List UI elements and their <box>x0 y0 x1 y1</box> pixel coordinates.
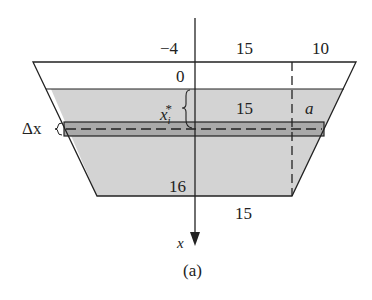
label-delta-x: Δx <box>22 120 41 137</box>
caption: (a) <box>183 262 202 279</box>
arrow-down-icon <box>190 232 200 246</box>
label-axis-x: x <box>177 236 184 251</box>
label-zero: 0 <box>176 68 185 85</box>
label-xi-star: xi* <box>160 102 177 126</box>
label-top-10: 10 <box>312 40 329 57</box>
label-minus-4: −4 <box>160 40 178 57</box>
label-16: 16 <box>169 178 186 195</box>
label-a: a <box>305 100 314 117</box>
label-top-15: 15 <box>236 40 253 57</box>
dx-brace <box>55 123 62 135</box>
label-water-15: 15 <box>236 100 253 117</box>
label-bottom-15: 15 <box>235 205 252 222</box>
